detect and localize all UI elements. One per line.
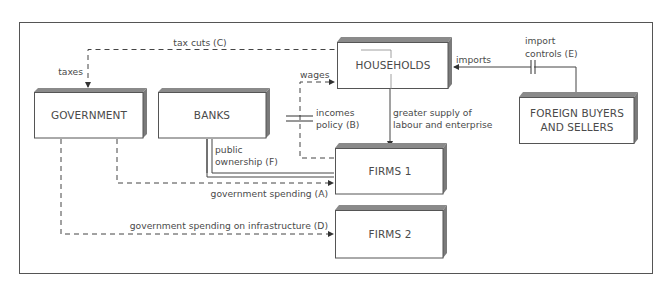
label-labour-supply-line2: labour and enterprise (393, 119, 493, 130)
label-import-controls-line2: controls (E) (525, 48, 578, 59)
label-taxes: taxes (58, 66, 83, 77)
node-firms1: FIRMS 1 (335, 143, 447, 194)
economy-flow-diagram: GOVERNMENT BANKS HOUSEHOLDS FOREIGN BUYE… (0, 0, 661, 282)
label-incomes-policy-line2: policy (B) (316, 119, 359, 130)
node-firms2-label: FIRMS 2 (369, 228, 412, 240)
node-firms2: FIRMS 2 (335, 205, 447, 258)
node-foreign-label-line1: FOREIGN BUYERS (530, 107, 624, 119)
node-households-label: HOUSEHOLDS (356, 59, 431, 71)
label-public-ownership-line2: ownership (F) (215, 156, 278, 167)
node-foreign-label-line2: AND SELLERS (540, 121, 613, 133)
node-government-label: GOVERNMENT (51, 109, 128, 121)
node-banks: BANKS (158, 88, 270, 138)
label-import-controls-line1: import (525, 35, 556, 46)
node-government: GOVERNMENT (34, 88, 147, 138)
label-wages: wages (300, 69, 330, 80)
node-firms1-label: FIRMS 1 (369, 165, 412, 177)
label-imports: imports (456, 54, 491, 65)
label-incomes-policy-line1: incomes (316, 107, 355, 118)
label-labour-supply-line1: greater supply of (393, 107, 472, 118)
node-banks-label: BANKS (194, 109, 231, 121)
node-foreign: FOREIGN BUYERS AND SELLERS (519, 92, 638, 144)
label-gov-spending: government spending (A) (211, 188, 328, 199)
label-gov-infrastructure: government spending on infrastructure (D… (130, 220, 328, 231)
label-tax-cuts: tax cuts (C) (173, 37, 226, 48)
label-public-ownership-line1: public (215, 144, 243, 155)
node-households: HOUSEHOLDS (337, 37, 452, 89)
